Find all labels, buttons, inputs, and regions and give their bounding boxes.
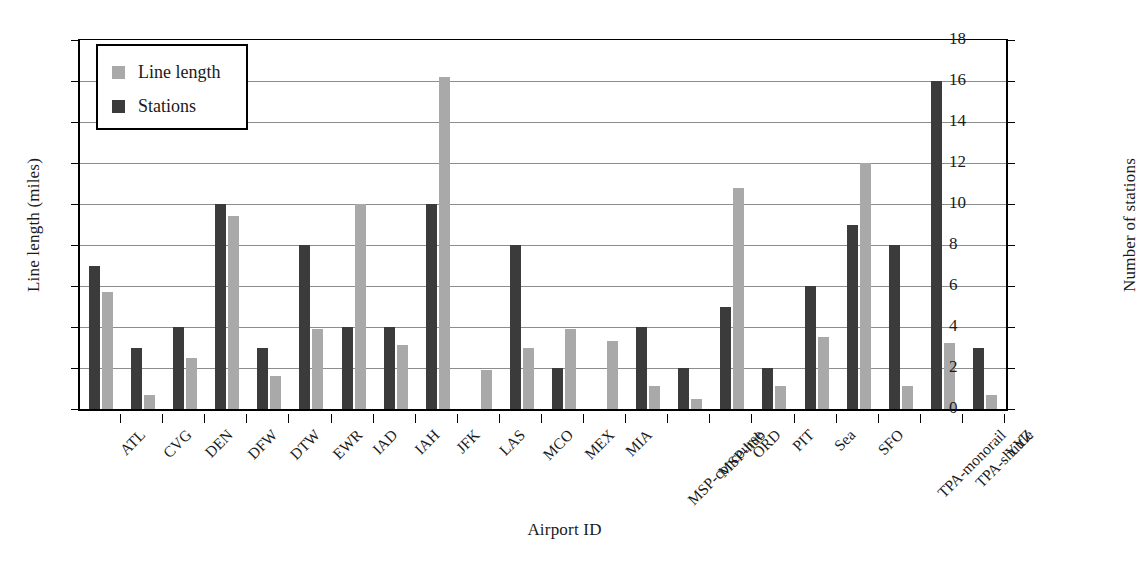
bar-group: [417, 40, 459, 409]
x-axis-category-label: ATL: [116, 426, 149, 459]
x-axis-category-label: LAS: [495, 426, 528, 459]
x-axis-category-label: CVG: [160, 426, 196, 462]
y-axis-right-tick-label: 16: [949, 71, 989, 88]
x-axis-tick: [288, 414, 289, 423]
legend-item-line-length: Line length: [112, 55, 246, 89]
x-axis-category-label: MEX: [581, 426, 618, 463]
bar-stations: [426, 204, 437, 409]
legend-item-stations: Stations: [112, 89, 246, 123]
bar-line-length: [102, 292, 113, 409]
bar-line-length: [228, 216, 239, 409]
x-axis-tick: [246, 414, 247, 423]
x-axis-category-labels: ATLCVGDENDFWDTWEWRIADIAHJFKLASMCOMEXMIAM…: [78, 414, 1008, 514]
bar-stations: [552, 368, 563, 409]
bar-stations: [636, 327, 647, 409]
bar-line-length: [312, 329, 323, 409]
x-axis-category-label: EWR: [329, 426, 366, 463]
bar-line-length: [186, 358, 197, 409]
x-axis-title: Airport ID: [0, 520, 1129, 540]
bar-line-length: [649, 386, 660, 409]
bar-stations: [678, 368, 689, 409]
x-axis-tick: [331, 414, 332, 423]
x-axis-category-label: DFW: [244, 426, 281, 463]
x-axis-category-label: MCO: [539, 426, 577, 464]
legend-swatch-line-length-icon: [112, 66, 125, 79]
y-axis-left-tick: [71, 122, 80, 123]
x-axis-category-label: JFK: [452, 426, 483, 457]
bar-stations: [131, 348, 142, 410]
bar-line-length: [860, 163, 871, 409]
bar-line-length: [691, 399, 702, 409]
chart-legend: Line length Stations: [96, 44, 248, 130]
bar-group: [669, 40, 711, 409]
y-axis-left-tick: [71, 40, 80, 41]
y-axis-right-tick: [1006, 368, 1015, 369]
y-axis-left-title: Line length (miles): [24, 95, 44, 355]
x-axis-tick: [667, 414, 668, 423]
bar-line-length: [144, 395, 155, 409]
y-axis-right-tick: [1006, 40, 1015, 41]
x-axis-tick: [457, 414, 458, 423]
x-axis-tick: [878, 414, 879, 423]
x-axis-tick: [583, 414, 584, 423]
x-axis-tick: [204, 414, 205, 423]
bar-group: [922, 40, 964, 409]
bar-line-length: [733, 188, 744, 409]
bar-stations: [805, 286, 816, 409]
bar-line-length: [607, 341, 618, 409]
bar-stations: [889, 245, 900, 409]
bar-stations: [847, 225, 858, 410]
y-axis-left-tick: [71, 81, 80, 82]
bar-stations: [89, 266, 100, 410]
y-axis-right-tick-label: 2: [949, 358, 989, 375]
bar-line-length: [818, 337, 829, 409]
y-axis-right-tick: [1006, 81, 1015, 82]
bar-line-length: [397, 345, 408, 409]
bar-line-length: [775, 386, 786, 409]
bar-line-length: [355, 204, 366, 409]
y-axis-right-tick-label: 4: [949, 317, 989, 334]
x-axis-tick: [836, 414, 837, 423]
bar-group: [290, 40, 332, 409]
x-axis-tick: [415, 414, 416, 423]
x-axis-tick: [541, 414, 542, 423]
bar-group: [333, 40, 375, 409]
x-axis-category-label: IAH: [411, 426, 443, 458]
x-axis-tick: [794, 414, 795, 423]
bar-stations: [215, 204, 226, 409]
bar-group: [796, 40, 838, 409]
y-axis-right-tick-label: 6: [949, 276, 989, 293]
y-axis-right-tick-label: 12: [949, 153, 989, 170]
bar-line-length: [439, 77, 450, 409]
bar-group: [543, 40, 585, 409]
bar-stations: [299, 245, 310, 409]
bar-line-length: [902, 386, 913, 409]
bar-group: [627, 40, 669, 409]
y-axis-left-tick: [71, 286, 80, 287]
x-axis-tick: [1004, 414, 1005, 423]
bar-line-length: [565, 329, 576, 409]
y-axis-right-tick: [1006, 122, 1015, 123]
y-axis-right-tick-label: 18: [949, 30, 989, 47]
y-axis-right-tick: [1006, 327, 1015, 328]
y-axis-right-tick: [1006, 163, 1015, 164]
x-axis-category-label: MIA: [622, 426, 656, 460]
y-axis-right-tick: [1006, 286, 1015, 287]
legend-swatch-stations-icon: [112, 100, 125, 113]
x-axis-category-label: SFO: [874, 426, 907, 459]
y-axis-right-tick-label: 10: [949, 194, 989, 211]
bar-stations: [173, 327, 184, 409]
x-axis-category-label: PIT: [788, 426, 817, 455]
bar-stations: [257, 348, 268, 410]
bar-group: [880, 40, 922, 409]
x-axis-category-label: IAD: [369, 426, 401, 458]
x-axis-tick: [373, 414, 374, 423]
legend-label-stations: Stations: [138, 97, 196, 115]
bar-stations: [720, 307, 731, 410]
y-axis-left-tick: [71, 163, 80, 164]
bar-stations: [931, 81, 942, 409]
bar-stations: [510, 245, 521, 409]
x-axis-tick: [625, 414, 626, 423]
y-axis-right-tick: [1006, 245, 1015, 246]
